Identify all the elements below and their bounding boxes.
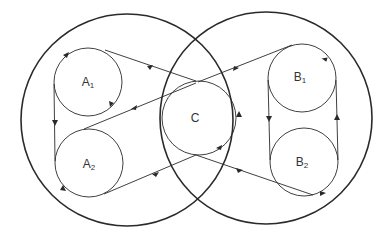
arrow-icon — [236, 111, 242, 117]
edge-b1-to-c — [198, 45, 292, 82]
node-c-label: C — [191, 111, 200, 125]
node-b2-label: B2 — [296, 155, 308, 170]
arrow-icon — [236, 168, 243, 173]
node-b1-label: B1 — [294, 70, 306, 85]
arrow-icon — [320, 191, 326, 196]
edge-a2-to-c-upper — [84, 83, 196, 129]
arrow-icon — [52, 120, 58, 126]
arrow-icon — [322, 58, 329, 63]
node-a2-label: A2 — [83, 157, 95, 172]
arrow-icon — [334, 114, 340, 120]
node-a1-label: A1 — [82, 75, 94, 90]
arrow-icon — [60, 185, 66, 191]
arrow-icon — [63, 52, 69, 58]
edge-a2-to-c-lower — [104, 155, 196, 194]
arrow-icon — [147, 65, 153, 70]
arrow-icon — [266, 116, 272, 122]
